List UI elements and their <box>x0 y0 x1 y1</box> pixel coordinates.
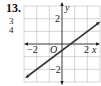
y-axis-label: y <box>64 2 70 13</box>
coordinate-graph: −2 O 2 x 2 y −2 <box>0 0 101 86</box>
x-tick-neg2: −2 <box>27 44 38 55</box>
x-tick-2: 2 <box>84 44 89 55</box>
y-tick-2: 2 <box>55 13 60 24</box>
origin-label: O <box>50 44 57 55</box>
y-tick-neg2: −2 <box>50 64 61 75</box>
x-axis-label: x <box>91 44 97 55</box>
